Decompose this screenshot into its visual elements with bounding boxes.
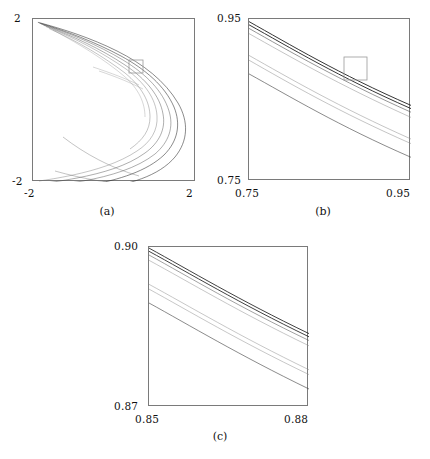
axis-label-a-ymin: -2 [12,175,23,187]
axis-label-c-xmax: 0.88 [284,413,308,425]
axis-label-c-xmin: 0.85 [135,413,159,425]
axis-label-c-ymax: 0.90 [114,240,138,252]
plot-frame-b [248,18,410,180]
zoom-box-b [344,57,367,80]
band-upper-4 [149,260,309,346]
panel-c: 0.90 0.87 0.85 0.88 (c) [110,230,325,459]
band-lower-1 [249,74,411,157]
band-middle-1 [149,284,309,370]
attractor-curve-inner-4 [39,27,157,181]
panel-caption-a: (a) [82,205,132,218]
attractor-plot-c [149,247,309,407]
band-middle-2 [149,289,309,375]
axis-label-b-xmax: 0.95 [386,187,410,199]
attractor-curve-wisp-1 [49,29,150,150]
panel-caption-c: (c) [195,430,245,443]
axis-label-b-ymax: 0.95 [217,12,241,24]
axis-label-b-ymin: 0.75 [217,174,241,186]
band-upper-3 [249,28,411,112]
band-upper-1 [249,22,411,106]
panel-a: 2 -2 -2 2 (a) [0,0,215,230]
band-upper-2 [149,251,309,336]
axis-label-c-ymin: 0.87 [114,400,138,412]
plot-frame-a [32,18,195,181]
attractor-plot-b [249,19,411,181]
axis-label-a-ymax: 2 [14,12,21,24]
axis-label-a-xmin: -2 [24,187,35,199]
band-upper-1 [149,248,309,334]
panel-b: 0.95 0.75 0.75 0.95 (b) [215,0,430,230]
axis-label-b-xmin: 0.75 [235,187,259,199]
axis-label-a-xmax: 2 [186,187,193,199]
attractor-curve-inner-3 [39,25,164,182]
panel-caption-b: (b) [298,205,348,218]
attractor-plot-a [33,19,196,182]
band-lower-1 [149,303,309,389]
attractor-curve-wisp-4 [53,30,145,117]
attractor-curve-outer [38,22,186,182]
plot-frame-c [148,246,308,406]
